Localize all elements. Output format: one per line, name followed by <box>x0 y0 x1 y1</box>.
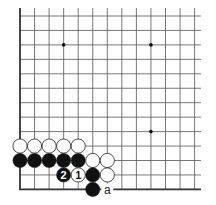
go-board: a21 <box>0 0 216 205</box>
white-stone <box>27 139 41 153</box>
star-point <box>149 43 153 47</box>
white-stone <box>13 139 27 153</box>
white-stone <box>100 153 114 167</box>
white-stone <box>86 153 100 167</box>
black-stone <box>13 153 27 167</box>
point-label-a: a <box>104 183 111 197</box>
white-stone <box>71 139 85 153</box>
black-stone <box>86 168 100 182</box>
black-stone <box>71 153 85 167</box>
black-stone <box>27 153 41 167</box>
move-number-2: 2 <box>61 169 67 181</box>
white-stone <box>57 139 71 153</box>
star-point <box>62 43 66 47</box>
black-stone <box>42 153 56 167</box>
black-stone <box>86 182 100 196</box>
star-point <box>149 130 153 134</box>
white-stone <box>100 168 114 182</box>
black-stone <box>57 153 71 167</box>
move-number-1: 1 <box>75 169 81 181</box>
white-stone <box>42 139 56 153</box>
